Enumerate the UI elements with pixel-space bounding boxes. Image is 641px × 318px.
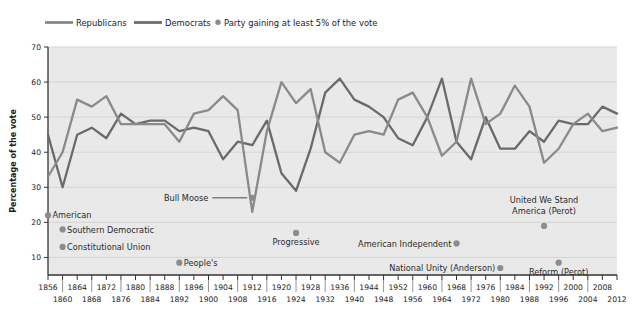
x-tick-label-bottom: 1924 (286, 295, 305, 304)
x-tick-label-bottom: 1964 (432, 295, 451, 304)
x-tick-label-bottom: 1908 (228, 295, 247, 304)
legend-label-democrats: Democrats (165, 18, 211, 28)
x-tick-label-top: 2000 (564, 283, 583, 292)
third-party-dot (293, 230, 299, 236)
x-tick-label-top: 1896 (184, 283, 203, 292)
x-tick-label-bottom: 2004 (578, 295, 597, 304)
chart-container: Republicans Democrats Party gaining at l… (0, 0, 641, 318)
x-tick-label-top: 1928 (301, 283, 320, 292)
x-tick-label-top: 1960 (418, 283, 437, 292)
x-tick-label-top: 1936 (330, 283, 349, 292)
third-party-dot (249, 195, 255, 201)
x-tick-label-bottom: 1988 (520, 295, 539, 304)
x-tick-label-top: 1880 (126, 283, 145, 292)
x-tick-label-bottom: 1876 (111, 295, 130, 304)
third-party-label: American Independent (358, 239, 452, 249)
legend-label-republicans: Republicans (76, 18, 127, 28)
third-party-dot (497, 265, 503, 271)
x-tick-label-bottom: 2012 (607, 295, 626, 304)
x-tick-label-bottom: 1996 (549, 295, 568, 304)
third-party-dot (59, 244, 65, 250)
third-party-dot (45, 212, 51, 218)
x-tick-label-top: 1976 (476, 283, 495, 292)
y-tick-label: 10 (31, 253, 41, 262)
x-tick-label-bottom: 1948 (374, 295, 393, 304)
third-party-label: Constitutional Union (67, 242, 150, 252)
y-tick-label: 50 (31, 113, 41, 122)
third-party-point: American (45, 210, 92, 220)
x-tick-label-top: 1944 (359, 283, 378, 292)
x-tick-label-top: 2008 (593, 283, 612, 292)
x-tick-label-top: 1904 (213, 283, 232, 292)
y-tick-label: 40 (31, 148, 41, 157)
y-tick-label: 20 (31, 218, 41, 227)
y-axis-title: Percentage of the vote (9, 109, 18, 213)
third-party-point: Southern Democratic (59, 225, 154, 235)
x-tick-label-top: 1920 (272, 283, 291, 292)
x-tick-label-top: 1984 (505, 283, 524, 292)
third-party-label: American (53, 210, 92, 220)
third-party-dot (176, 260, 182, 266)
election-vote-share-chart: Republicans Democrats Party gaining at l… (0, 0, 641, 318)
x-tick-label-bottom: 1868 (82, 295, 101, 304)
y-tick-label: 70 (31, 43, 41, 52)
third-party-label: United We Stand (510, 195, 579, 205)
x-tick-label-top: 1992 (534, 283, 553, 292)
third-party-dot (453, 240, 459, 246)
legend-item-third-party: Party gaining at least 5% of the vote (215, 18, 377, 28)
y-tick-label: 60 (31, 78, 41, 87)
x-tick-label-top: 1968 (447, 283, 466, 292)
third-party-label: Southern Democratic (67, 225, 154, 235)
x-tick-label-top: 1888 (155, 283, 174, 292)
x-tick-label-top: 1864 (68, 283, 87, 292)
x-tick-label-top: 1856 (38, 283, 57, 292)
third-party-label: People's (184, 258, 218, 268)
x-tick-label-bottom: 1860 (53, 295, 72, 304)
third-party-label: Progressive (272, 237, 319, 247)
x-tick-label-bottom: 1916 (257, 295, 276, 304)
legend-label-third-party: Party gaining at least 5% of the vote (224, 18, 377, 28)
x-tick-label-bottom: 1932 (316, 295, 335, 304)
x-tick-label-bottom: 1956 (403, 295, 422, 304)
third-party-label: America (Perot) (512, 206, 576, 216)
y-tick-label: 30 (31, 183, 41, 192)
x-tick-label-bottom: 1980 (491, 295, 510, 304)
third-party-dot (556, 260, 562, 266)
legend-dot-icon (215, 20, 220, 25)
third-party-dot (59, 226, 65, 232)
third-party-point: National Unity (Anderson) (389, 263, 503, 273)
x-tick-label-top: 1952 (388, 283, 407, 292)
third-party-label: National Unity (Anderson) (389, 263, 495, 273)
plot-area-background (48, 47, 617, 275)
x-tick-label-bottom: 1900 (199, 295, 218, 304)
x-tick-label-bottom: 1940 (345, 295, 364, 304)
x-tick-label-top: 1912 (243, 283, 262, 292)
x-tick-label-bottom: 1884 (140, 295, 159, 304)
third-party-point: Constitutional Union (59, 242, 150, 252)
x-tick-label-bottom: 1972 (461, 295, 480, 304)
third-party-label: Bull Moose (164, 193, 208, 203)
x-tick-label-top: 1872 (97, 283, 116, 292)
third-party-label: Reform (Perot) (529, 267, 589, 277)
third-party-point: American Independent (358, 239, 460, 249)
x-tick-label-bottom: 1892 (170, 295, 189, 304)
third-party-dot (541, 223, 547, 229)
